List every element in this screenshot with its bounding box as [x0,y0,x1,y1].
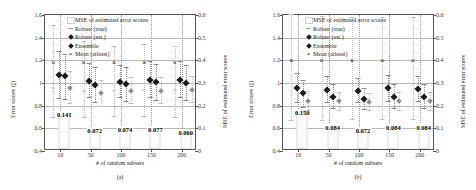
legend-label: Mean (atleast) [313,50,347,59]
error-bar-cap [325,76,330,77]
error-bar-cap [93,67,98,68]
mse-bar [150,132,161,149]
marker-robust-true: × [289,57,293,64]
y-tick-mark-right [433,15,436,16]
marker-ensemble [330,93,337,100]
y-tick-label-right: 0.5 [198,35,206,41]
y-tick-mark-right [195,106,198,107]
panel-a: Error scores (ξ)MSE of estimated error s… [0,0,238,190]
marker-mean-atleast [67,85,73,91]
x-tick-label: 50 [88,152,94,158]
mse-bar [358,133,369,149]
mse-bar [89,133,100,149]
y-tick-mark-left [280,60,283,61]
error-bar-cap [367,93,372,94]
y-tick-mark-right [195,38,198,39]
mse-bar [59,117,70,149]
legend-symbol-wrap [66,35,75,39]
marker-ensemble [183,79,190,86]
mse-value-label: 0.077 [147,126,164,133]
error-bar-cap [289,120,294,121]
x-tick-label: 150 [147,152,156,158]
marker-mean-atleast [366,99,372,105]
error-bar-cap [189,102,194,103]
mse-value-label: 0.141 [56,111,73,118]
error-bar-cap [306,91,311,92]
mse-value-label: 0.084 [415,124,432,131]
y-tick-label-left: 1.2 [35,57,43,63]
mse-value-label: 0.060 [177,129,194,136]
mse-value-label: 0.084 [324,124,341,131]
mse-bar [120,132,131,149]
error-bar-cap [361,109,366,110]
legend-item: Robust (true) [66,25,170,34]
legend-item: Ensemble [66,42,170,51]
error-bar-cap [427,92,432,93]
figure-two-panel: Error scores (ξ)MSE of estimated error s… [0,0,476,190]
x-tick-label: 10 [57,152,63,158]
x-tick-mark [298,149,299,152]
error-bar-cap [319,120,324,121]
x-tick-label: 200 [415,152,424,158]
mse-value-label: 0.072 [355,127,372,134]
y-tick-label-left: 1.4 [35,35,43,41]
x-axis-label: # of random subsets [282,160,434,166]
error-bar-cap [300,107,305,108]
y-tick-label-right: 0.2 [198,103,206,109]
mse-bar [418,130,429,149]
tick-marker-icon [68,28,73,29]
error-bar-cap [153,100,158,101]
error-bar-cap [172,46,177,47]
y-tick-mark-right [195,15,198,16]
y-tick-label-left: 1.2 [273,57,281,63]
error-bar-whisker [413,17,414,119]
x-tick-mark [91,149,92,152]
error-bar-cap [391,84,396,85]
marker-mean-atleast [397,98,403,104]
error-bar-cap [331,108,336,109]
y-tick-label-right: 0.1 [198,125,206,131]
x-tick-mark [151,149,152,152]
legend-symbol-wrap [66,17,75,24]
marker-mean-atleast-top: × [51,59,55,66]
error-bar-cap [306,110,311,111]
y-tick-mark-left [42,128,45,129]
y-tick-mark-left [280,83,283,84]
error-bar-cap [350,119,355,120]
error-bar-cap [153,64,158,65]
error-bar-cap [98,80,103,81]
y-tick-label-right: 0 [198,148,201,154]
error-bar-cap [294,73,299,74]
y-tick-mark-left [42,83,45,84]
legend-item: MSE of estimated error scores [66,16,170,25]
marker-robust-true: × [411,57,415,64]
marker-ensemble [61,73,68,80]
x-tick-label: 50 [326,152,332,158]
marker-mean-atleast-top: × [173,59,177,66]
x-tick-mark [182,149,183,152]
error-bar-cap [112,116,117,117]
error-bar-cap [56,51,61,52]
y-axis-label-left: Error scores (ξ) [248,81,254,118]
y-tick-label-left: 0.6 [273,125,281,131]
y-tick-mark-left [42,151,45,152]
marker-ensemble [421,93,428,100]
y-tick-label-left: 0.4 [273,148,281,154]
y-tick-label-right: 0.6 [198,12,206,18]
error-bar-cap [410,119,415,120]
y-tick-mark-left [280,128,283,129]
y-tick-mark-left [42,15,45,16]
error-bar-cap [289,14,294,15]
legend-label: Robust (true) [313,25,345,34]
legend-item: MSE of estimated error scores [304,16,408,25]
mse-bar [297,115,308,149]
marker-mean-atleast-top: × [112,59,116,66]
bar-swatch-icon [67,17,75,24]
legend-item: Ensemble [304,42,408,51]
legend-label: Mean (atleast) [75,50,109,59]
panel-caption: (a) [44,174,196,180]
error-bar-cap [397,92,402,93]
y-tick-label-right: 0.3 [198,80,206,86]
legend-item: ×Mean (atleast) [304,50,408,59]
mse-value-label: 0.084 [385,124,402,131]
